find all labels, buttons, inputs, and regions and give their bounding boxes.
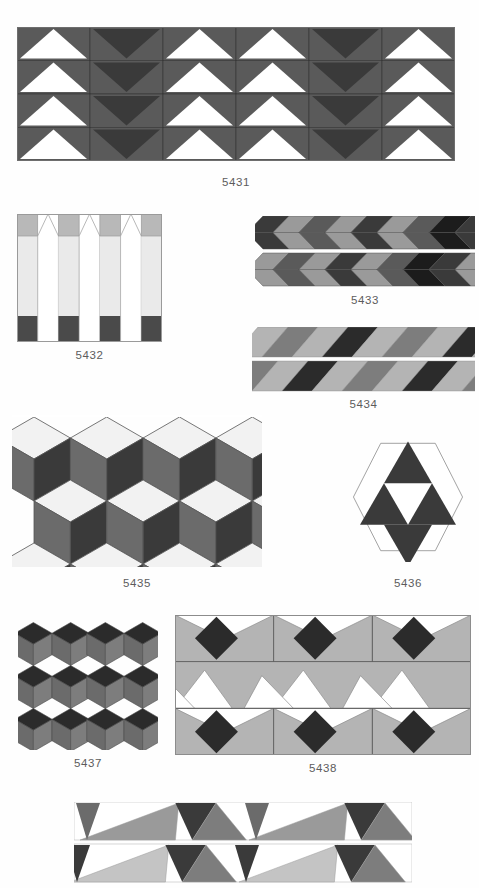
fig5432-arrow-column [121, 214, 142, 342]
fig5438-rule-h2 [175, 708, 471, 709]
figure-5438-svg [175, 615, 471, 755]
fig5432-column-foot [141, 316, 162, 342]
caption-5438: 5438 [175, 762, 471, 774]
caption-5433: 5433 [255, 294, 475, 306]
fig5436-hex [353, 442, 462, 562]
caption-5431: 5431 [17, 176, 455, 188]
fig5438-rule-v [372, 615, 373, 662]
figure-5434-svg [252, 327, 475, 393]
fig5432-column-foot [58, 316, 79, 342]
fig5432-column-body [17, 236, 38, 316]
fig5435-cubes [12, 415, 262, 567]
figure-5439-cropped [74, 802, 412, 886]
fig5432-arrow-column [79, 214, 100, 342]
figure-5439-svg [74, 802, 412, 886]
fig5434-stripes [252, 327, 475, 393]
fig5438-rule-h1 [175, 661, 471, 662]
fig5432-column-body [100, 236, 121, 316]
figure-5433-svg [255, 216, 475, 290]
fig5435-mask-top [12, 415, 262, 417]
caption-5434: 5434 [252, 398, 475, 410]
figure-5435-svg [12, 415, 262, 567]
fig5438-bands [175, 615, 471, 755]
top-cropped-header-text [0, 0, 479, 12]
fig5432-column-cap [100, 214, 121, 236]
fig5432-arrow-column [38, 214, 59, 342]
pattern-plate-page: 5431 5432 5433 5434 5435 5436 [0, 0, 479, 888]
fig5433-chevrons [255, 216, 475, 290]
figure-5437-svg [18, 622, 158, 750]
fig5432-strips [17, 214, 162, 342]
figure-5432-svg [17, 214, 162, 342]
figure-5435 [12, 415, 262, 567]
fig5432-column-cap [17, 214, 38, 236]
caption-5432: 5432 [17, 349, 162, 361]
caption-5435: 5435 [12, 577, 262, 589]
fig5432-column-cap [141, 214, 162, 236]
fig5432-column-foot [17, 316, 38, 342]
fig5437-hexgrid [18, 622, 158, 750]
figure-5431-svg [17, 27, 455, 161]
figure-5433 [255, 216, 475, 290]
figure-5436-svg [352, 432, 464, 562]
figure-5437 [18, 622, 158, 750]
figure-5438 [175, 615, 471, 755]
figure-5432 [17, 214, 162, 342]
fig5432-column-body [141, 236, 162, 316]
fig5432-column-foot [100, 316, 121, 342]
fig5432-column-body [58, 236, 79, 316]
fig5431-cells [17, 27, 455, 161]
figure-5431 [17, 27, 455, 161]
caption-5437: 5437 [18, 757, 158, 769]
figure-5436 [352, 432, 464, 562]
figure-5434 [252, 327, 475, 393]
fig5438-rule-v [273, 615, 274, 662]
caption-5436: 5436 [352, 577, 464, 589]
fig5432-column-cap [58, 214, 79, 236]
fig5439-strips [74, 802, 412, 886]
fig5438-rule-v [273, 708, 274, 755]
fig5438-rule-v [372, 708, 373, 755]
